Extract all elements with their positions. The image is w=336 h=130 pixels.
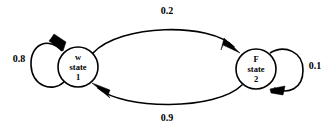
arc-path-state2-to-state1 [98,85,242,105]
edge-weight-top: 0.2 [161,5,174,16]
edge-state1-to-state2 [93,30,240,53]
edge-weight-right-self-loop: 0.1 [309,60,322,71]
node-state1-word: state [70,62,87,72]
edge-state2-to-state1 [92,83,242,105]
arrowhead-state2-to-state1 [92,83,110,98]
node-state2-symbol: F [253,54,258,64]
node-state1[interactable]: w state 1 [58,47,98,87]
arrowhead-state1-self-loop [49,34,66,51]
node-state2-word: state [248,64,265,74]
edge-weight-bottom: 0.9 [161,112,174,123]
state-transition-diagram: w state 1 F state 2 0.2 0.9 0.8 0.1 [0,0,336,130]
node-state1-number: 1 [76,72,80,82]
diagram-canvas: w state 1 F state 2 0.2 0.9 0.8 0.1 [0,0,336,130]
edge-weight-left-self-loop: 0.8 [13,53,26,64]
arc-path-state1-to-state2 [93,30,234,53]
node-state2[interactable]: F state 2 [236,49,276,89]
arrowhead-state1-to-state2 [221,38,240,53]
node-state2-number: 2 [254,74,258,84]
arrowhead-state2-self-loop [270,86,285,95]
node-state1-symbol: w [75,52,82,62]
